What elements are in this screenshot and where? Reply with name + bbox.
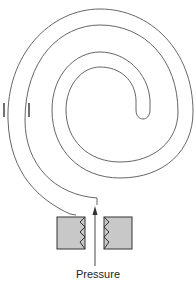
spiral-tube	[8, 9, 193, 215]
bourdon-tube-diagram	[0, 0, 196, 286]
tube-outer-wall	[8, 9, 193, 215]
pressure-label: Pressure	[0, 268, 196, 280]
pressure-inlet-arrow	[93, 206, 98, 266]
socket-fitting	[57, 217, 132, 249]
